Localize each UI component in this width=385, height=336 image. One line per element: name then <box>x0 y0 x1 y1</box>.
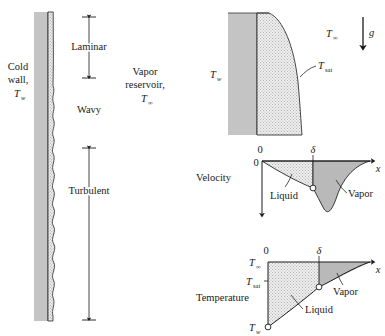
condensate-film <box>48 12 55 321</box>
temperature-tw-subscript: w <box>256 328 261 335</box>
film-panel-tw-label: T w <box>210 69 222 82</box>
cold-wall-label: Cold wall, T w <box>8 61 29 101</box>
vapor-reservoir-label: Vapor reservoir, T ∞ <box>125 66 165 106</box>
velocity-origin-tick-vertical: 0 <box>253 157 258 168</box>
panel-wall-regimes: Cold wall, T w Vapor reservoir, T ∞ Lami… <box>8 12 165 321</box>
panel-temperature-profile: 0 δ x T ∞ T sat T w Temperature Liquid V… <box>196 245 381 335</box>
temperature-origin-tick: 0 <box>263 245 268 256</box>
cold-wall-line1: Cold <box>8 61 29 72</box>
tsat-leader-line <box>300 66 316 77</box>
film-tsat-symbol: T <box>318 60 325 71</box>
temperature-tsat-label: T sat <box>246 276 260 289</box>
velocity-origin-tick: 0 <box>257 144 262 155</box>
film-panel-wall <box>228 13 257 135</box>
velocity-axis-label: Velocity <box>196 172 232 183</box>
velocity-interface-marker <box>310 185 316 191</box>
film-panel-tinf-label: T ∞ <box>326 28 338 41</box>
temperature-tsat-subscript: sat <box>253 282 260 289</box>
film-tinf-symbol: T <box>326 28 333 39</box>
film-panel-condensate <box>257 13 302 135</box>
temperature-tinf-label: T ∞ <box>249 257 261 270</box>
gravity-arrow: g <box>363 17 374 49</box>
cold-wall-band <box>34 12 48 321</box>
temperature-tsat-symbol: T <box>246 276 253 287</box>
regime-label-laminar: Laminar <box>71 41 107 52</box>
cold-wall-symbol: T <box>14 88 21 99</box>
velocity-liquid-text: Liquid <box>270 190 299 201</box>
temperature-liquid-region <box>268 262 319 327</box>
velocity-vapor-text: Vapor <box>348 188 374 199</box>
cold-wall-subscript: w <box>21 94 26 101</box>
panel-velocity-profile: 0 0 δ x Velocity Liquid Vapor <box>196 144 381 216</box>
temperature-liquid-text: Liquid <box>305 304 334 315</box>
temperature-interface-marker <box>316 284 322 290</box>
temperature-delta-tick-label: δ <box>317 245 323 256</box>
temperature-tw-label: T w <box>249 322 261 335</box>
reservoir-symbol: T <box>141 93 148 104</box>
temperature-axis-label: Temperature <box>196 292 249 303</box>
velocity-x-axis-label: x <box>375 163 381 174</box>
temperature-x-axis-label: x <box>375 264 381 275</box>
regime-label-turbulent: Turbulent <box>68 185 109 196</box>
film-tw-subscript: w <box>217 75 222 82</box>
velocity-delta-tick-label: δ <box>311 144 317 155</box>
film-condensation-figure: Cold wall, T w Vapor reservoir, T ∞ Lami… <box>0 0 385 336</box>
gravity-label: g <box>369 27 374 38</box>
temperature-tinf-symbol: T <box>249 257 256 268</box>
film-tsat-subscript: sat <box>325 66 332 73</box>
temperature-tw-symbol: T <box>249 322 256 333</box>
panel-film-detail: T w T ∞ T sat g <box>210 13 374 135</box>
velocity-vapor-region <box>313 161 370 212</box>
reservoir-line1: Vapor <box>132 66 158 77</box>
temperature-vapor-text: Vapor <box>333 286 359 297</box>
film-tinf-subscript: ∞ <box>333 34 338 41</box>
temperature-tinf-subscript: ∞ <box>256 263 261 270</box>
reservoir-line2: reservoir, <box>125 79 165 90</box>
turbulent-extent-arrow <box>82 148 96 320</box>
temperature-wall-marker <box>265 324 271 330</box>
cold-wall-line2: wall, <box>8 74 29 85</box>
reservoir-subscript: ∞ <box>148 99 153 106</box>
regime-label-wavy: Wavy <box>77 104 102 115</box>
film-tw-symbol: T <box>210 69 217 80</box>
film-panel-tsat-label: T sat <box>300 60 332 77</box>
